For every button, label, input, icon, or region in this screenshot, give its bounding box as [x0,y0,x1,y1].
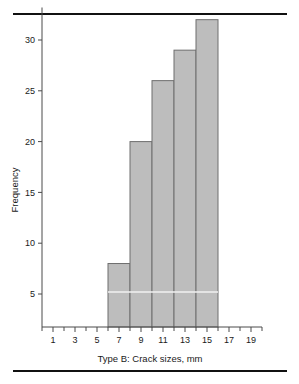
x-axis-tick-label: 13 [180,335,190,345]
x-axis-tick-label: 5 [94,335,99,345]
y-axis: 51015202530 [25,7,42,327]
y-axis-tick-label: 15 [25,188,35,198]
x-axis-tick-label: 15 [202,335,212,345]
x-axis-tick-label: 3 [72,335,77,345]
x-axis-tick-label: 1 [50,335,55,345]
histogram-bar [108,264,130,327]
y-axis-tick-label: 25 [25,86,35,96]
x-axis-tick-label: 19 [246,335,256,345]
y-axis-tick-label: 30 [25,35,35,45]
y-axis-title: Frequency [9,167,20,212]
histogram-plot: 51015202530 135791113151719 Frequency Ty… [0,0,299,384]
bars-group [108,20,218,327]
histogram-bar [196,20,218,327]
x-axis-tick-label: 11 [158,335,167,345]
histogram-bar [130,142,152,327]
y-axis-title-text: Frequency [9,167,20,212]
histogram-bar [152,81,174,327]
histogram-bar [174,50,196,327]
x-axis-tick-label: 17 [224,335,234,345]
y-axis-tick-label: 10 [25,238,35,248]
x-axis: 135791113151719 [42,327,262,345]
x-axis-title-text: Type B: Crack sizes, mm [97,353,202,364]
x-axis-tick-label: 7 [116,335,121,345]
y-axis-tick-label: 20 [25,137,35,147]
x-axis-tick-label: 9 [138,335,143,345]
y-axis-tick-label: 5 [30,289,35,299]
x-axis-title: Type B: Crack sizes, mm [97,353,202,364]
figure-container: 51015202530 135791113151719 Frequency Ty… [0,0,299,384]
